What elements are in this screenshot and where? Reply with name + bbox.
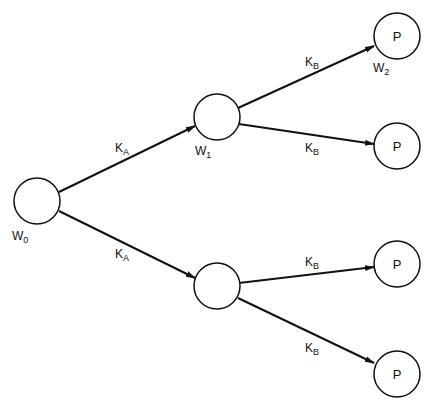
node-lower-intermediate xyxy=(194,263,240,309)
node-w0 xyxy=(14,178,60,224)
node-w1 xyxy=(194,94,240,140)
edge-label-w1-p2: KB xyxy=(305,141,319,157)
edge-w0-w1 xyxy=(59,126,195,192)
edge-label-lower-p4: KB xyxy=(305,341,319,357)
product-label-3: P xyxy=(393,257,402,272)
product-label-2: P xyxy=(393,139,402,154)
edge-label-lower-p3: KB xyxy=(305,255,319,271)
product-label-1: P xyxy=(393,29,402,44)
edge-lower-p3 xyxy=(239,267,374,283)
edge-label-w0-w1: KA xyxy=(115,141,129,157)
edge-w0-lower xyxy=(59,211,195,278)
reaction-tree-diagram: P P P P W0 W1 W2 KA KA KB KB KB KB xyxy=(0,0,432,406)
caption-w2: W2 xyxy=(373,61,389,77)
edge-label-w0-lower: KA xyxy=(115,247,129,263)
caption-w0: W0 xyxy=(12,229,28,245)
edge-label-w1-p1: KB xyxy=(305,55,319,71)
caption-w1: W1 xyxy=(195,144,211,160)
product-label-4: P xyxy=(393,367,402,382)
